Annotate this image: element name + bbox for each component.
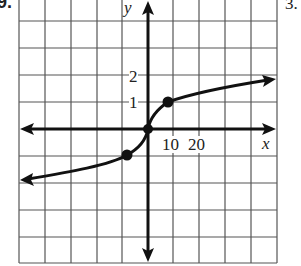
point-origin [143, 124, 153, 134]
y-tick-1: 1 [129, 94, 138, 111]
x-tick-10: 10 [162, 136, 179, 153]
problem-number-right: 3. [285, 0, 298, 12]
y-axis-label: y [124, 0, 132, 16]
point-10-1 [163, 97, 174, 108]
problem-number-left: 9. [0, 0, 12, 11]
x-axis-label: x [262, 135, 270, 152]
point-neg10-neg1 [122, 150, 133, 161]
x-tick-20: 20 [188, 136, 205, 153]
graph [0, 0, 301, 266]
y-tick-2: 2 [129, 68, 138, 85]
